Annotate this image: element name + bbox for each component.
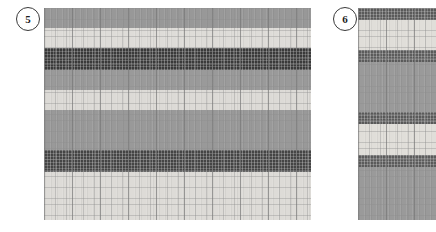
fabric-swatch-5 xyxy=(44,8,311,220)
panel-number-badge-5: 5 xyxy=(16,7,40,31)
swatch-bands xyxy=(44,8,311,220)
swatch-band-light-2 xyxy=(44,90,311,110)
swatch-band-mid-gray-3 xyxy=(44,110,311,150)
swatch-band-mid-gray-2 xyxy=(358,167,436,220)
swatch-band-mid-gray-1 xyxy=(44,8,311,28)
panel-number-badge-6: 6 xyxy=(333,7,357,31)
swatch-bands xyxy=(358,8,436,220)
swatch-band-mid-gray-2 xyxy=(44,70,311,90)
panel-number-label: 6 xyxy=(342,14,348,25)
swatch-band-dark-1 xyxy=(358,8,436,20)
swatch-band-light-2 xyxy=(358,124,436,155)
swatch-band-dark-1 xyxy=(44,48,311,70)
swatch-band-light-1 xyxy=(358,20,436,50)
swatch-band-dark-2 xyxy=(358,50,436,62)
swatch-band-light-1 xyxy=(44,28,311,48)
swatch-band-mid-gray-1 xyxy=(358,62,436,112)
swatch-band-dark-2 xyxy=(44,150,311,172)
panel-number-label: 5 xyxy=(25,14,31,25)
swatch-band-light-3 xyxy=(44,172,311,220)
swatch-band-dark-3 xyxy=(358,112,436,124)
figure-root: 56 xyxy=(0,0,436,232)
swatch-band-dark-4 xyxy=(358,155,436,167)
fabric-swatch-6 xyxy=(358,8,436,220)
